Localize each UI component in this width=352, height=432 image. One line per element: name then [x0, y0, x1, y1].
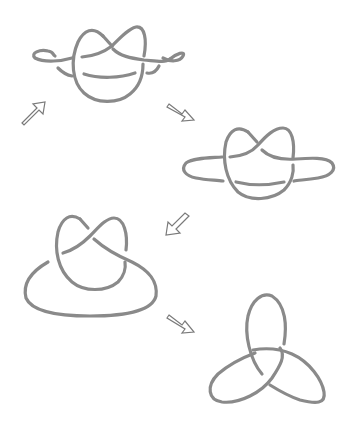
knot-stage-4-trefoil	[210, 295, 324, 402]
arrow-down-left-icon	[166, 213, 189, 235]
arrow-up-right-icon	[22, 102, 45, 125]
knot-diagram	[0, 0, 352, 432]
arrow-down-right-icon-2	[167, 315, 194, 333]
knot-stage-2	[184, 128, 334, 199]
arrow-down-right-icon	[167, 104, 194, 121]
knot-stage-3	[25, 217, 156, 316]
knot-stage-1	[34, 27, 184, 101]
